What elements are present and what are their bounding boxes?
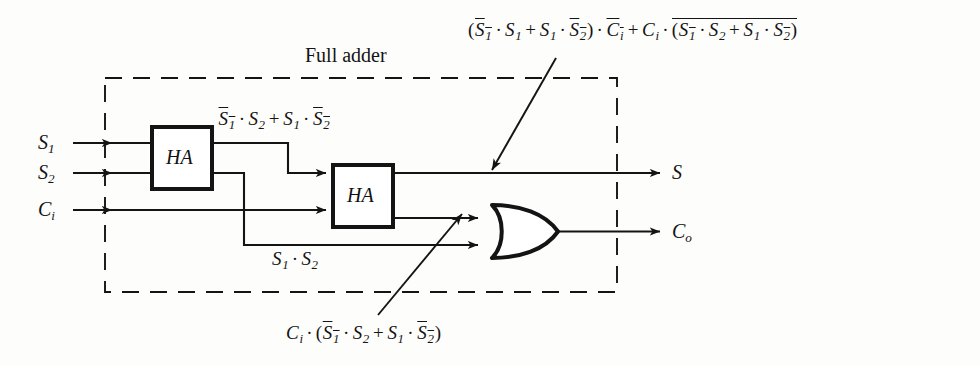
wire-ha1-sum-to-ha2 [212, 143, 326, 173]
ha1-input-wires [105, 143, 152, 173]
ha1-sum-expression: S1·S2+S1·S2 [218, 108, 330, 133]
circuit-svg [0, 0, 980, 365]
output-label-s: S [672, 161, 682, 184]
input-label-s1: S1 [38, 131, 55, 157]
input-label-s2: S2 [38, 161, 55, 187]
input-label-ci: Ci [38, 198, 55, 224]
figure-canvas: Full adder HA HA S1 S2 Ci S Co S1·S2+S1·… [0, 0, 980, 365]
sum-output-expression: (S1·S1+S1·S2)·Ci+Ci·(S1·S2+S1·S2) [468, 18, 797, 44]
half-adder-2-label: HA [347, 184, 374, 207]
leader-arrow-sum-expression [492, 58, 556, 170]
ha1-carry-expression: S1·S2 [272, 248, 318, 273]
or-gate-body [492, 205, 558, 258]
half-adder-1-label: HA [166, 146, 193, 169]
output-label-co: Co [672, 220, 692, 246]
input-wires [73, 143, 112, 210]
full-adder-title: Full adder [305, 44, 387, 67]
carry-partial-expression: Ci·(S1·S2+S1·S2) [286, 322, 441, 347]
leader-arrow-carry-partial-expression [378, 214, 462, 315]
